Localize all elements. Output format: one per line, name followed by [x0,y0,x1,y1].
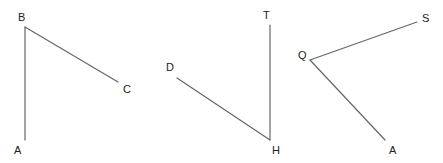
point-label-a-second: A [389,145,396,156]
point-label-s: S [422,13,429,24]
point-label-t: T [263,10,270,21]
angle-rays-svg [0,0,443,163]
point-label-q: Q [298,50,307,61]
point-label-d: D [166,62,174,73]
ray-q-to-a [310,60,385,140]
point-label-a-first: A [14,145,21,156]
geometry-diagram-canvas: B A C D T H Q S A [0,0,443,163]
point-label-b: B [18,12,25,23]
ray-h-to-d [177,78,270,140]
ray-q-to-s [310,22,417,60]
point-label-h: H [272,145,280,156]
ray-b-to-c [25,27,118,82]
point-label-c: C [123,84,131,95]
